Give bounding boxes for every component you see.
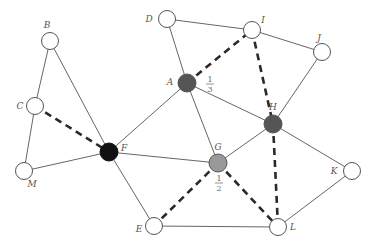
node-label: D — [144, 14, 152, 24]
fraction-annotation-g: 12 — [215, 174, 223, 193]
node-label: B — [43, 20, 51, 30]
node-l: L — [270, 219, 297, 236]
node-label: E — [135, 224, 143, 234]
edge-h-g — [218, 124, 273, 163]
node-circle — [159, 11, 176, 28]
node-circle — [16, 163, 33, 180]
node-label: K — [330, 166, 339, 176]
edge-f-g — [109, 152, 218, 163]
node-m: M — [16, 163, 38, 190]
edge-m-f — [24, 152, 109, 171]
edge-j-h — [273, 52, 322, 124]
edge-b-c — [35, 41, 50, 106]
node-circle — [264, 115, 282, 133]
node-circle — [42, 33, 59, 50]
annotations-layer: 1312 — [206, 75, 223, 193]
node-circle — [244, 22, 261, 39]
node-label: C — [17, 101, 24, 111]
node-i: I — [244, 15, 266, 39]
svg-text:1: 1 — [207, 75, 212, 84]
edge-c-f-dashed — [35, 106, 109, 152]
node-b: B — [42, 20, 59, 50]
edge-f-e — [109, 152, 154, 226]
edge-a-d — [167, 19, 187, 83]
node-circle — [314, 44, 331, 61]
edge-d-i — [167, 19, 252, 30]
nodes-layer: BCMFADIJHGKLE — [16, 11, 361, 236]
edge-k-l — [278, 171, 352, 227]
node-h: H — [264, 102, 282, 133]
edges-layer — [24, 19, 352, 227]
edge-h-k — [273, 124, 352, 171]
node-a: A — [166, 74, 196, 92]
node-label: I — [260, 15, 265, 25]
node-label: A — [166, 77, 174, 87]
edge-i-j — [252, 30, 322, 52]
node-circle — [146, 218, 163, 235]
svg-text:2: 2 — [216, 184, 221, 193]
edge-g-l-dashed — [218, 163, 278, 227]
svg-text:1: 1 — [216, 174, 221, 183]
edge-b-f — [50, 41, 109, 152]
node-label: L — [289, 222, 296, 232]
edge-a-i-dashed — [187, 30, 252, 83]
node-k: K — [330, 163, 361, 180]
node-j: J — [314, 33, 331, 61]
node-circle — [27, 98, 44, 115]
node-label: G — [214, 142, 221, 152]
svg-text:3: 3 — [207, 85, 212, 94]
graph-diagram: BCMFADIJHGKLE 1312 — [0, 0, 374, 243]
node-label: F — [120, 143, 128, 153]
edge-f-a — [109, 83, 187, 152]
edge-e-l — [154, 226, 278, 227]
node-c: C — [17, 98, 44, 115]
node-circle — [344, 163, 361, 180]
fraction-annotation-a: 13 — [206, 75, 214, 94]
node-circle — [178, 74, 196, 92]
edge-a-h — [187, 83, 273, 124]
edge-c-m — [24, 106, 35, 171]
node-label: H — [268, 102, 277, 112]
edge-a-g — [187, 83, 218, 163]
node-f: F — [100, 143, 128, 161]
node-circle — [209, 154, 227, 172]
edge-h-l-dashed — [273, 124, 278, 227]
node-d: D — [144, 11, 175, 28]
edge-g-e-dashed — [154, 163, 218, 226]
node-e: E — [135, 218, 163, 235]
node-label: M — [26, 179, 37, 189]
node-circle — [270, 219, 287, 236]
node-label: J — [315, 33, 322, 43]
node-circle — [100, 143, 118, 161]
